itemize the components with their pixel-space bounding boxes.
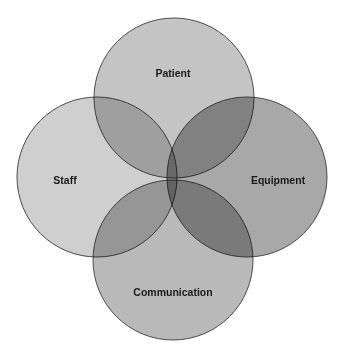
staff-label: Staff (53, 174, 77, 186)
communication-circle (93, 180, 253, 340)
patient-label: Patient (155, 67, 191, 79)
equipment-label: Equipment (251, 174, 306, 186)
communication-label: Communication (133, 286, 212, 298)
venn-diagram: Patient Staff Equipment Communication (0, 0, 338, 350)
